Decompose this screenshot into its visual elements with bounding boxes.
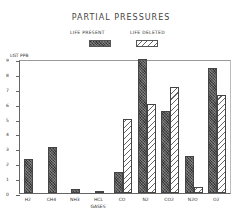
y-tick-label: 4 — [6, 132, 9, 137]
legend-label-deleted: LIFE DELETED — [130, 30, 165, 35]
y-tick — [16, 180, 20, 181]
bar-life-deleted-n2o — [194, 187, 203, 193]
y-tick-label: 6 — [6, 102, 9, 107]
bar-life-present-n2o — [185, 156, 194, 193]
y-tick — [16, 165, 20, 166]
y-tick — [16, 61, 20, 62]
bar-life-deleted-co — [123, 119, 132, 193]
legend-label-present: LIFE PRESENT — [70, 30, 105, 35]
y-tick — [16, 135, 20, 136]
plot-area — [19, 60, 231, 194]
x-tick-label: H2 — [25, 197, 31, 202]
bar-life-present-co2 — [161, 111, 170, 193]
legend-swatch-deleted — [136, 40, 158, 47]
bar-life-present-co — [114, 172, 123, 193]
y-tick — [16, 195, 20, 196]
x-tick-label: N2 — [142, 197, 148, 202]
x-axis-title: GASES — [90, 204, 105, 209]
chart-title: PARTIAL PRESSURES — [0, 13, 242, 22]
y-tick-label: 1 — [6, 177, 9, 182]
bar-life-present-nh3 — [71, 189, 80, 193]
x-tick-label: HCL — [94, 197, 103, 202]
bar-life-present-o2 — [208, 68, 217, 193]
bar-life-present-h2 — [24, 159, 33, 193]
bar-life-deleted-n2 — [147, 104, 156, 193]
y-tick-label: 2 — [6, 162, 9, 167]
y-tick-label: 9 — [6, 58, 9, 63]
y-tick-label: 0 — [6, 192, 9, 197]
y-tick-label: 7 — [6, 87, 9, 92]
y-tick — [16, 76, 20, 77]
y-tick — [16, 150, 20, 151]
x-tick-label: CH4 — [47, 197, 56, 202]
x-tick-label: N2O — [188, 197, 198, 202]
y-tick-label: 5 — [6, 117, 9, 122]
y-axis-label: LGT PPB — [10, 53, 29, 58]
legend-swatch-present — [89, 40, 111, 47]
y-tick-label: 3 — [6, 147, 9, 152]
x-tick-label: NH3 — [70, 197, 80, 202]
y-tick-label: 8 — [6, 72, 9, 77]
bar-life-deleted-co2 — [170, 87, 179, 193]
bar-life-present-n2 — [138, 59, 147, 193]
bar-life-present-hcl — [95, 191, 104, 193]
y-tick — [16, 121, 20, 122]
y-tick — [16, 106, 20, 107]
bar-life-present-ch4 — [48, 147, 57, 193]
y-tick — [16, 91, 20, 92]
x-tick-label: CO2 — [164, 197, 174, 202]
x-tick-label: CO — [119, 197, 126, 202]
x-tick-label: O2 — [213, 197, 219, 202]
bar-life-deleted-o2 — [217, 95, 226, 193]
